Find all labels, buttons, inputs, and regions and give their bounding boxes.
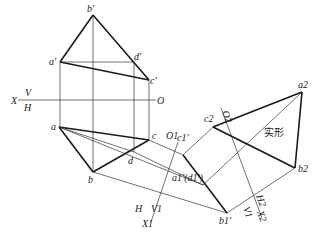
edge-c1-b1: [183, 155, 227, 213]
label-b2: b2: [298, 163, 308, 174]
true-shape-label: 实形: [264, 126, 284, 138]
label-c: c: [152, 130, 157, 141]
label-v: V: [25, 87, 33, 98]
label-b1-prime: b1': [219, 215, 232, 226]
label-x2: X2: [255, 208, 269, 223]
projection-diagram: b' a' d' c' X V H O a b c d O1 H V1 X1 c…: [0, 0, 316, 237]
label-c1-prime: c1': [177, 132, 189, 143]
aux-view-1: [183, 155, 227, 213]
label-c-prime: c': [150, 75, 157, 86]
top-view: [59, 127, 149, 172]
label-o2: O2: [220, 109, 235, 124]
label-b: b: [88, 174, 93, 185]
line-ad: [59, 127, 134, 152]
label-d-prime: d': [134, 51, 142, 62]
edge-a2-b2: [295, 92, 302, 168]
edge-bc: [93, 140, 149, 172]
label-c2: c2: [204, 113, 213, 124]
proj-a1-a2: [203, 92, 302, 185]
projectors-2: [183, 92, 302, 213]
edge-ac: [59, 127, 149, 140]
label-h: H: [23, 102, 32, 113]
edge-b'a': [60, 15, 93, 62]
label-a: a: [51, 121, 56, 132]
label-v1: V1: [151, 203, 162, 214]
label-o: O: [157, 95, 164, 106]
label-x1-h: H: [134, 203, 143, 214]
label-a-prime: a': [49, 56, 57, 67]
label-x: X: [10, 95, 18, 106]
label-a2: a2: [298, 79, 308, 90]
label-x1: X1: [141, 218, 153, 229]
label-b-prime: b': [87, 3, 95, 14]
label-a1-d1-prime: a1'(d1'): [172, 172, 204, 184]
aux-view-2-true-shape: [213, 92, 302, 168]
label-v1-x2: V1: [241, 205, 255, 219]
x2-axis-line: [221, 108, 262, 218]
label-h2: H2: [254, 192, 269, 208]
